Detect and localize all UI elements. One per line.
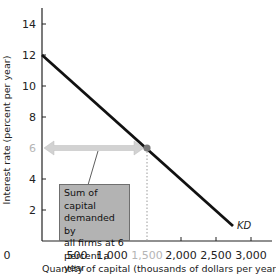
svg-text:4: 4 bbox=[29, 173, 36, 186]
svg-text:12: 12 bbox=[22, 49, 36, 62]
svg-text:3,000: 3,000 bbox=[235, 249, 267, 262]
svg-text:1,500: 1,500 bbox=[131, 249, 163, 262]
svg-text:2: 2 bbox=[29, 204, 36, 217]
annotation-line: demanded by bbox=[64, 212, 125, 237]
annotation-line: all firms at 6 bbox=[64, 237, 125, 250]
svg-text:0: 0 bbox=[4, 249, 11, 262]
y-tick-labels: 14 12 10 8 6 4 2 bbox=[22, 18, 36, 217]
equilibrium-point bbox=[143, 144, 150, 151]
chart-canvas: 14 12 10 8 6 4 2 0 500 1,000 1,500 2,000… bbox=[0, 0, 276, 280]
double-arrow bbox=[44, 141, 144, 155]
svg-text:2,500: 2,500 bbox=[200, 249, 232, 262]
svg-text:10: 10 bbox=[22, 80, 36, 93]
x-tick-labels: 0 500 1,000 1,500 2,000 2,500 3,000 bbox=[4, 249, 267, 262]
annotation-line: Sum of capital bbox=[64, 187, 125, 212]
svg-text:6: 6 bbox=[29, 142, 36, 155]
annotation-line: percent a year bbox=[64, 250, 125, 275]
y-axis-title: Interest rate (percent per year) bbox=[1, 56, 12, 205]
kd-label: KD bbox=[237, 220, 252, 231]
svg-text:14: 14 bbox=[22, 18, 36, 31]
annotation-box: Sum of capital demanded by all firms at … bbox=[59, 184, 130, 241]
svg-text:8: 8 bbox=[29, 111, 36, 124]
annotation-leader bbox=[88, 151, 98, 185]
svg-text:2,000: 2,000 bbox=[165, 249, 197, 262]
